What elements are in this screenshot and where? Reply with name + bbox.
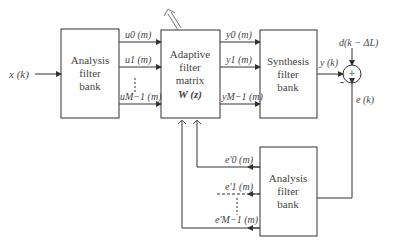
analysis-top-line1: Analysis bbox=[71, 54, 110, 66]
analysis-top-line3: bank bbox=[79, 80, 101, 92]
output-label: y (k) bbox=[319, 57, 339, 69]
subband-adaptive-filter-diagram: x (k) Analysis filter bank Adaptive filt… bbox=[0, 0, 394, 252]
synthesis-line2: filter bbox=[277, 68, 299, 80]
error-label: e (k) bbox=[356, 94, 375, 106]
analysis-bottom-line3: bank bbox=[277, 198, 299, 210]
synthesis-line3: bank bbox=[277, 81, 299, 93]
adaptive-line2: filter bbox=[179, 61, 201, 73]
y0-label: y0 (m) bbox=[225, 29, 252, 41]
adaptive-line4: W (z) bbox=[178, 88, 202, 101]
minus-sign: - bbox=[340, 75, 344, 89]
synthesis-line1: Synthesis bbox=[267, 55, 309, 67]
analysis-bottom-line2: filter bbox=[277, 185, 299, 197]
input-label: x (k) bbox=[8, 68, 29, 81]
e0-label: e'0 (m) bbox=[225, 154, 254, 166]
eM1-label: e'M−1 (m) bbox=[215, 214, 259, 226]
u1-label: u1 (m) bbox=[125, 54, 152, 66]
analysis-bottom-line1: Analysis bbox=[269, 172, 308, 184]
y1-label: y1 (m) bbox=[225, 54, 252, 66]
adaptive-line1: Adaptive bbox=[170, 48, 210, 60]
adaptive-line3: matrix bbox=[176, 74, 205, 86]
e1-label: e'1 (m) bbox=[225, 181, 254, 193]
uM1-label: uM−1 (m) bbox=[120, 91, 162, 103]
sum-symbol: + bbox=[349, 67, 356, 81]
u0-label: u0 (m) bbox=[125, 29, 152, 41]
desired-label: d(k − ΔL) bbox=[339, 37, 379, 49]
yM1-label: yM−1 (m) bbox=[221, 91, 264, 103]
analysis-top-line2: filter bbox=[79, 67, 101, 79]
